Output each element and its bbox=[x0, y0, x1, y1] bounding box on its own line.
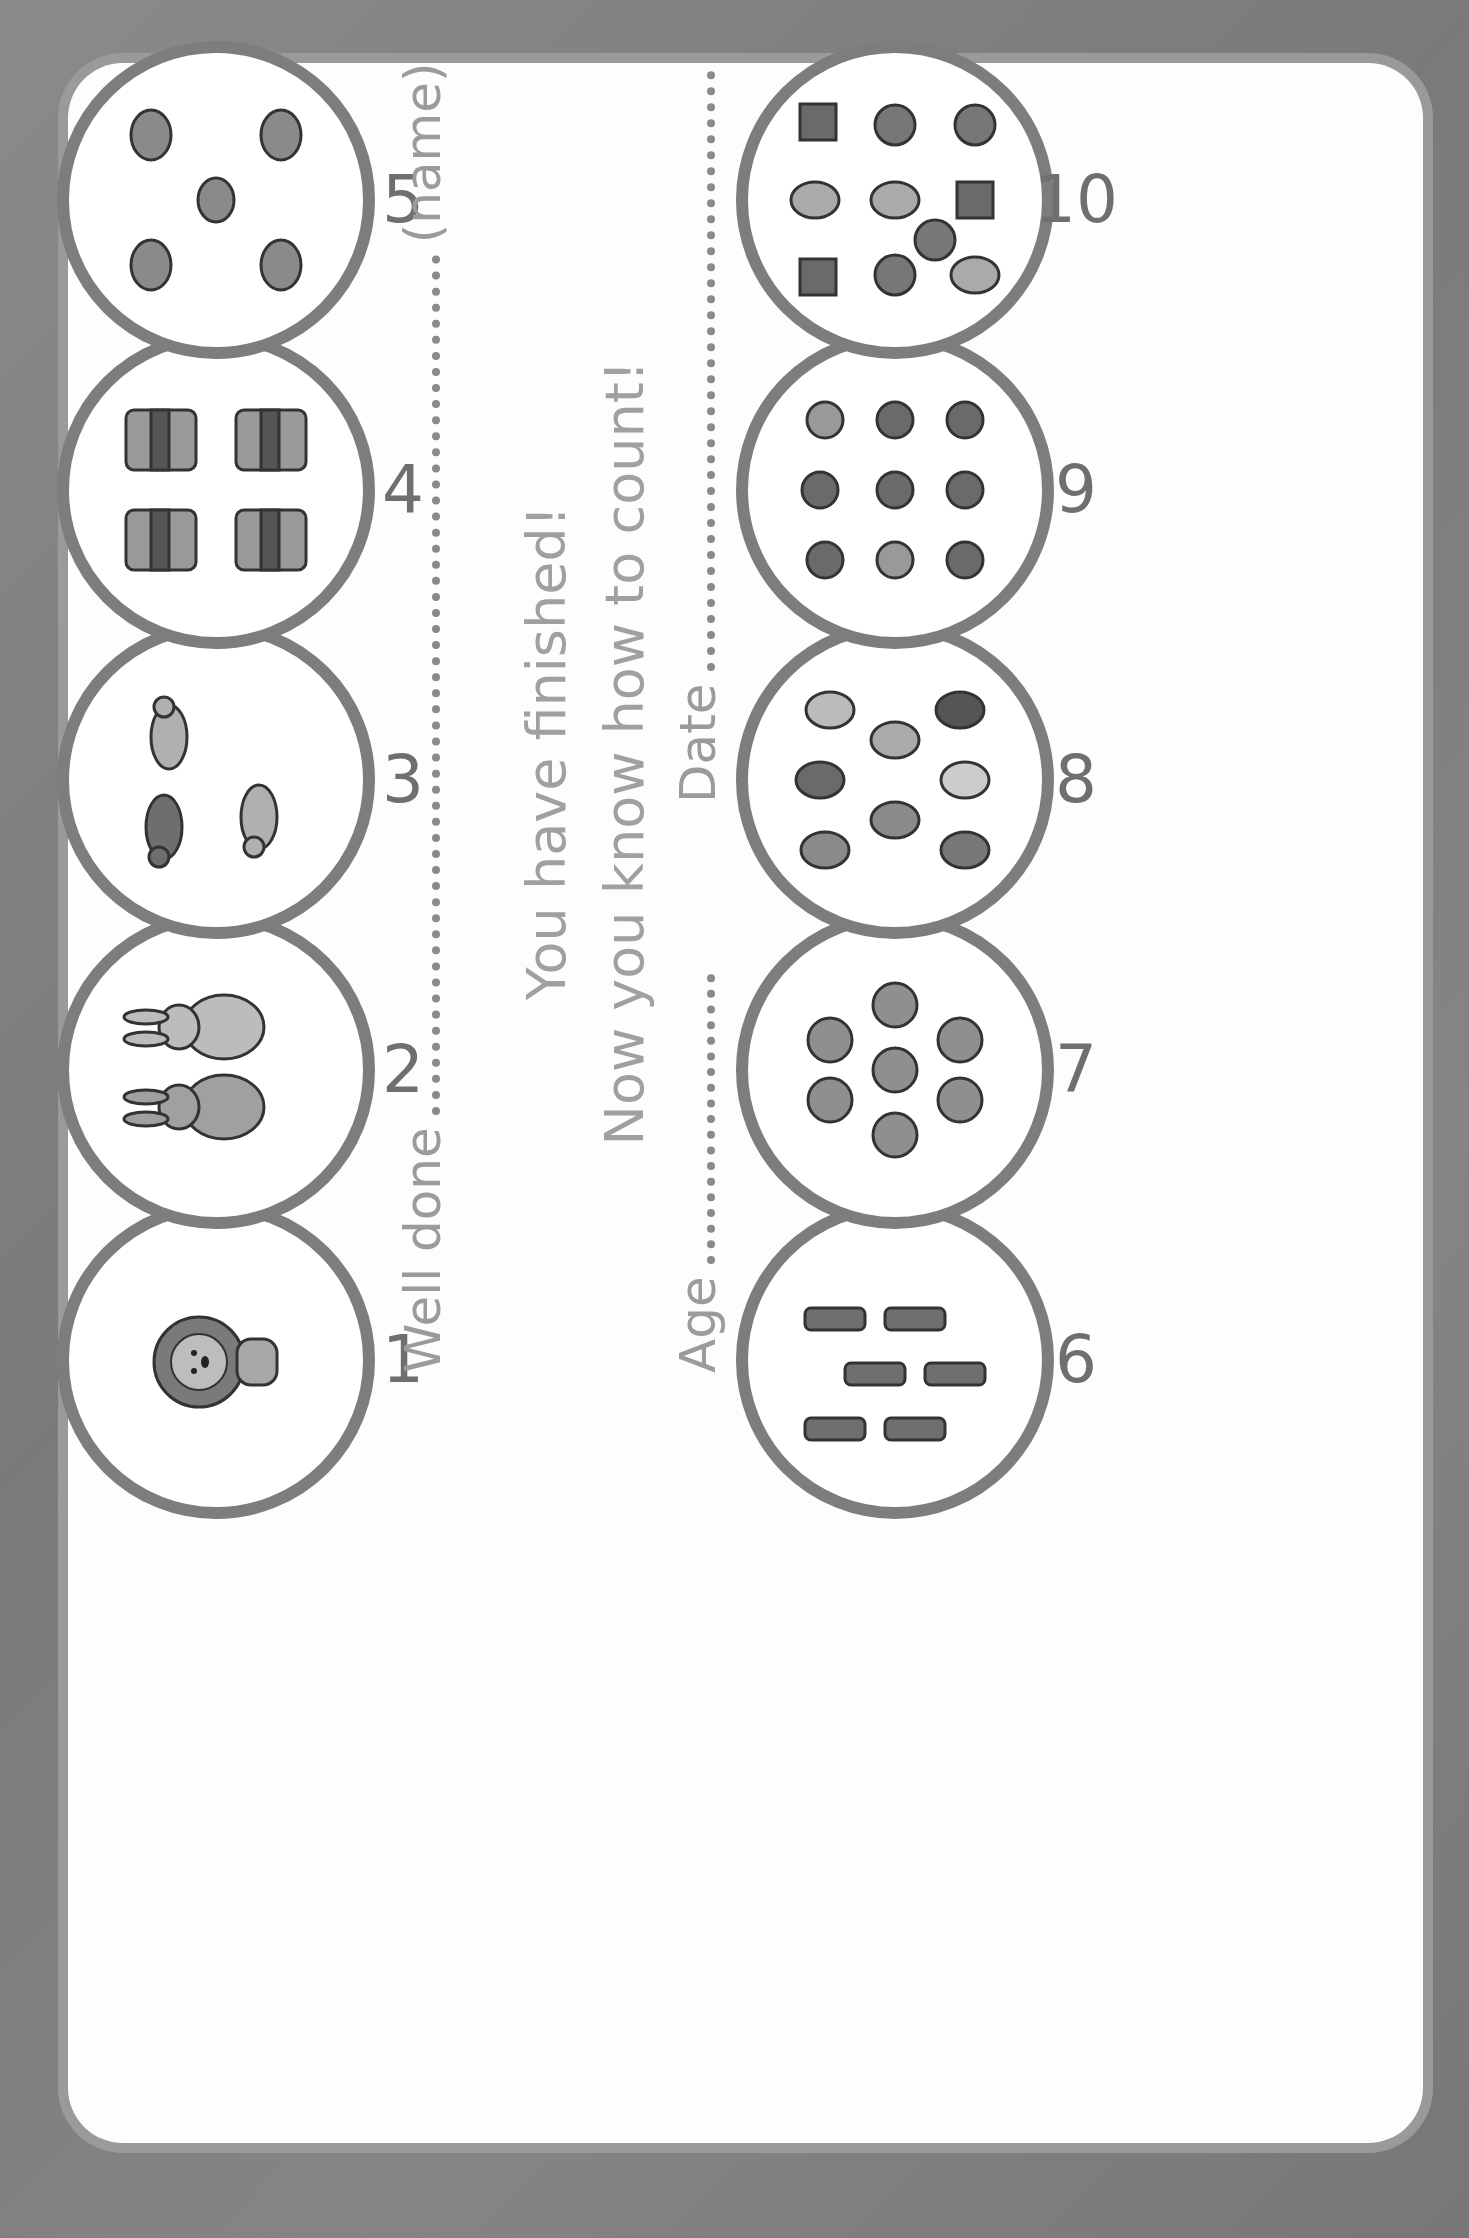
count-circle-10 bbox=[736, 41, 1054, 359]
sweet-icon bbox=[780, 85, 1010, 315]
worksheet-card: 1 2 3 bbox=[68, 63, 1423, 2143]
apple-icon bbox=[785, 960, 1005, 1180]
age-line: Age bbox=[673, 962, 723, 1373]
lion-icon bbox=[139, 1287, 289, 1437]
date-line: Date bbox=[673, 59, 723, 803]
count-circle-2 bbox=[57, 911, 375, 1229]
count-circle-4 bbox=[57, 331, 375, 649]
count-circle-7 bbox=[736, 911, 1054, 1229]
well-done-line: Well done(name) bbox=[398, 62, 448, 1373]
count-circle-5 bbox=[57, 41, 375, 359]
finished-message: You have finished! bbox=[520, 463, 574, 1043]
count-circle-9 bbox=[736, 331, 1054, 649]
count-message: Now you know how to count! bbox=[598, 323, 652, 1183]
count-circle-8 bbox=[736, 621, 1054, 939]
count-number-10: 10 bbox=[1016, 167, 1136, 233]
date-field[interactable] bbox=[707, 71, 715, 671]
count-number-6: 6 bbox=[1016, 1327, 1136, 1393]
count-number-8: 8 bbox=[1016, 747, 1136, 813]
rabbit-icon bbox=[134, 967, 294, 1167]
count-number-9: 9 bbox=[1016, 457, 1136, 523]
well-done-label: Well done bbox=[394, 1127, 452, 1373]
date-label: Date bbox=[669, 683, 727, 803]
certificate-page: 1 2 3 bbox=[0, 0, 1469, 2238]
age-label: Age bbox=[669, 1276, 727, 1373]
sock-icon bbox=[785, 1250, 1005, 1470]
bird-icon bbox=[785, 380, 1005, 600]
mouse-icon bbox=[109, 667, 309, 887]
count-circle-3 bbox=[57, 621, 375, 939]
count-circle-1 bbox=[57, 1201, 375, 1519]
name-hint: (name) bbox=[394, 62, 452, 243]
name-field[interactable] bbox=[432, 255, 440, 1115]
count-number-7: 7 bbox=[1016, 1037, 1136, 1103]
fish-icon bbox=[106, 90, 326, 310]
cake-icon bbox=[96, 370, 336, 610]
balloon-icon bbox=[785, 670, 1005, 890]
age-field[interactable] bbox=[707, 974, 715, 1264]
count-circle-6 bbox=[736, 1201, 1054, 1519]
